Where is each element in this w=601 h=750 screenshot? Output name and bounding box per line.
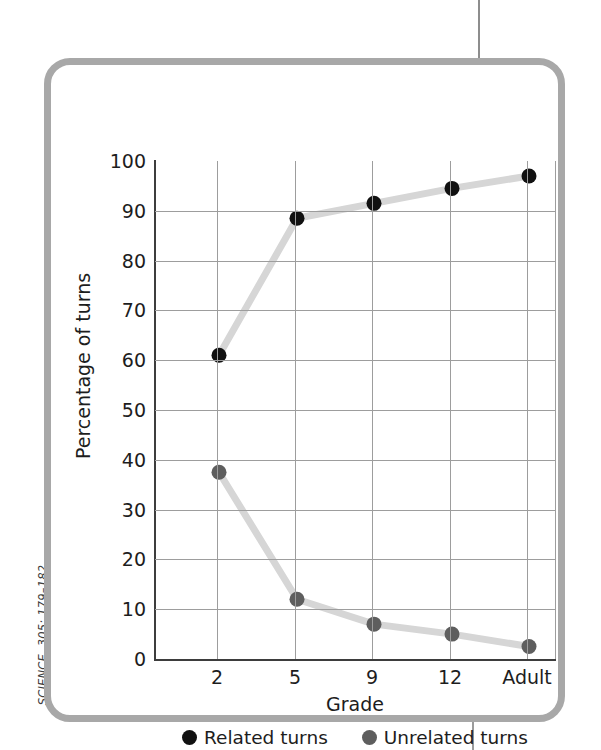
- gridline-vertical: [555, 161, 556, 659]
- legend-dot-icon: [362, 730, 377, 745]
- data-point: [445, 181, 460, 196]
- gridline-horizontal: [155, 261, 555, 262]
- y-tick-label: 30: [122, 498, 146, 520]
- gridline-vertical: [295, 161, 296, 659]
- y-axis-title: Percentage of turns: [72, 216, 94, 516]
- y-tick-label: 80: [122, 249, 146, 271]
- data-point: [290, 211, 305, 226]
- data-point: [445, 627, 460, 642]
- data-point: [290, 592, 305, 607]
- y-tick-label: 20: [122, 548, 146, 570]
- gridline-vertical: [450, 161, 451, 659]
- gridline-vertical: [527, 161, 528, 659]
- gridline-horizontal: [155, 460, 555, 461]
- gridline-horizontal: [155, 510, 555, 511]
- x-tick-label: Adult: [502, 666, 552, 688]
- y-tick-label: 50: [122, 399, 146, 421]
- data-point: [212, 465, 227, 480]
- legend-item[interactable]: Unrelated turns: [362, 727, 528, 748]
- plot-area: 010203040506070809010025912Adult: [155, 161, 555, 659]
- y-tick-label: 40: [122, 448, 146, 470]
- chart-legend: Related turnsUnrelated turns: [155, 727, 555, 748]
- y-tick-label: 70: [122, 299, 146, 321]
- series-line: [219, 176, 529, 355]
- page-rule-top: [478, 0, 480, 60]
- gridline-horizontal: [155, 360, 555, 361]
- gridline-vertical: [372, 161, 373, 659]
- legend-label: Unrelated turns: [384, 727, 528, 748]
- x-tick-label: 5: [289, 666, 301, 688]
- gridline-horizontal: [155, 410, 555, 411]
- gridline-horizontal: [155, 211, 555, 212]
- x-axis-line: [154, 659, 556, 661]
- figure-frame: Percentage of turns 01020304050607080901…: [44, 58, 565, 722]
- y-tick-label: 90: [122, 199, 146, 221]
- gridline-vertical: [217, 161, 218, 659]
- x-tick-label: 12: [438, 666, 462, 688]
- gridline-horizontal: [155, 559, 555, 560]
- data-point: [522, 168, 537, 183]
- data-point: [367, 617, 382, 632]
- y-tick-label: 100: [110, 150, 146, 172]
- x-axis-title: Grade: [155, 693, 555, 715]
- data-point: [522, 639, 537, 654]
- y-tick-label: 10: [122, 598, 146, 620]
- plot-wrapper: Percentage of turns 01020304050607080901…: [51, 65, 558, 715]
- x-tick-label: 9: [366, 666, 378, 688]
- legend-item[interactable]: Related turns: [182, 727, 328, 748]
- data-point: [367, 196, 382, 211]
- x-tick-label: 2: [211, 666, 223, 688]
- legend-label: Related turns: [204, 727, 328, 748]
- legend-dot-icon: [182, 730, 197, 745]
- gridline-horizontal: [155, 310, 555, 311]
- y-tick-label: 0: [134, 648, 146, 670]
- y-tick-label: 60: [122, 349, 146, 371]
- gridline-horizontal: [155, 609, 555, 610]
